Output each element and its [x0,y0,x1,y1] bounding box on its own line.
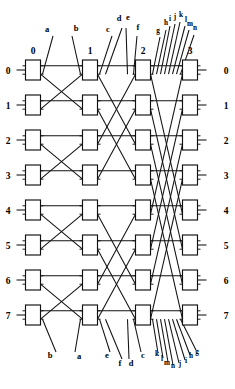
switch-node-s0-r1[interactable] [26,95,41,115]
row-label-left-3: 3 [6,171,11,181]
bottom-port-label-l: l [161,355,163,363]
switch-node-s3-r6[interactable] [183,270,198,290]
bottom-port-label-e: e [105,350,109,360]
switch-node-s0-r6[interactable] [26,270,41,290]
row-label-right-1: 1 [224,101,229,111]
row-label-left-2: 2 [6,136,11,146]
bottom-port-label-g: g [195,348,199,356]
switch-node-s3-r2[interactable] [183,130,198,150]
bottom-port-label-i: i [185,357,187,365]
row-label-right-6: 6 [224,276,229,286]
top-port-label-i: i [169,15,171,23]
bottom-port-label-c: c [141,350,145,360]
row-label-left-4: 4 [6,206,11,216]
switch-node-s3-r5[interactable] [183,235,198,255]
switch-node-s1-r4[interactable] [83,200,98,220]
top-port-label-n: n [193,24,197,32]
stage-header-0: 0 [31,46,36,56]
network-svg: 01230123456701234567abcdefghijklmnbaefdc… [0,0,235,389]
switch-node-s2-r0[interactable] [136,60,151,80]
bottom-port-label-n: n [171,362,175,370]
switch-node-s2-r2[interactable] [136,130,151,150]
row-label-right-3: 3 [224,171,229,181]
switch-node-s0-r0[interactable] [26,60,41,80]
switch-node-s0-r4[interactable] [26,200,41,220]
switch-node-s3-r1[interactable] [183,95,198,115]
row-label-left-0: 0 [6,66,11,76]
top-port-label-c: c [106,24,110,34]
bottom-port-label-h: h [189,352,193,360]
switch-node-s3-r4[interactable] [183,200,198,220]
top-port-wire-a [43,36,54,74]
top-port-wire-b [72,36,81,74]
row-label-right-7: 7 [224,311,229,321]
top-port-label-e: e [126,12,130,22]
row-label-right-0: 0 [224,66,229,76]
top-port-label-h: h [164,19,168,27]
row-label-left-6: 6 [6,276,11,286]
switch-node-s1-r6[interactable] [83,270,98,290]
switch-node-s3-r3[interactable] [183,165,198,185]
bottom-port-label-k: k [155,350,159,358]
switch-node-s0-r2[interactable] [26,130,41,150]
top-port-label-j: j [173,13,176,21]
row-label-left-1: 1 [6,101,11,111]
bottom-port-wire-d [128,319,130,359]
bottom-port-label-a: a [77,351,82,361]
switch-node-s1-r0[interactable] [83,60,98,80]
top-port-wire-d [106,28,123,74]
top-port-wire-c [100,36,113,74]
top-port-wire-e [126,28,128,74]
switch-node-s1-r1[interactable] [83,95,98,115]
switch-node-s2-r6[interactable] [136,270,151,290]
switch-node-s0-r5[interactable] [26,235,41,255]
bottom-port-label-f: f [119,358,122,368]
switch-node-s3-r7[interactable] [183,305,198,325]
switch-node-s2-r4[interactable] [136,200,151,220]
switch-node-s2-r7[interactable] [136,305,151,325]
switch-node-s0-r7[interactable] [26,305,41,325]
row-label-left-7: 7 [6,311,11,321]
bottom-port-wire-b [43,319,57,352]
row-label-left-5: 5 [6,241,11,251]
switch-node-s1-r2[interactable] [83,130,98,150]
switch-node-s2-r5[interactable] [136,235,151,255]
row-label-right-4: 4 [224,206,229,216]
stage-header-1: 1 [88,46,93,56]
bottom-port-wire-a [75,319,81,352]
top-port-label-a: a [45,24,50,34]
stage-header-2: 2 [141,46,146,56]
bottom-port-label-d: d [129,358,134,368]
switch-node-s1-r7[interactable] [83,305,98,325]
bottom-port-label-j: j [178,360,181,368]
switch-node-s0-r3[interactable] [26,165,41,185]
row-label-right-5: 5 [224,241,229,251]
bottom-port-wire-e [100,319,111,352]
top-port-label-g: g [156,27,160,35]
top-port-label-b: b [74,23,79,33]
top-port-label-d: d [117,13,122,23]
switch-node-s2-r1[interactable] [136,95,151,115]
top-port-label-f: f [137,22,140,32]
top-port-label-k: k [179,11,183,19]
stage-header-3: 3 [188,46,193,56]
row-label-right-2: 2 [224,136,229,146]
switch-node-s3-r0[interactable] [183,60,198,80]
bottom-port-label-b: b [48,350,53,360]
butterfly-network-diagram: 01230123456701234567abcdefghijklmnbaefdc… [0,0,235,389]
top-port-wire-g [153,37,161,74]
switch-node-s1-r5[interactable] [83,235,98,255]
bottom-port-label-m: m [164,359,170,367]
switch-node-s1-r3[interactable] [83,165,98,185]
switch-node-s2-r3[interactable] [136,165,151,185]
bottom-port-wire-j [169,319,180,363]
